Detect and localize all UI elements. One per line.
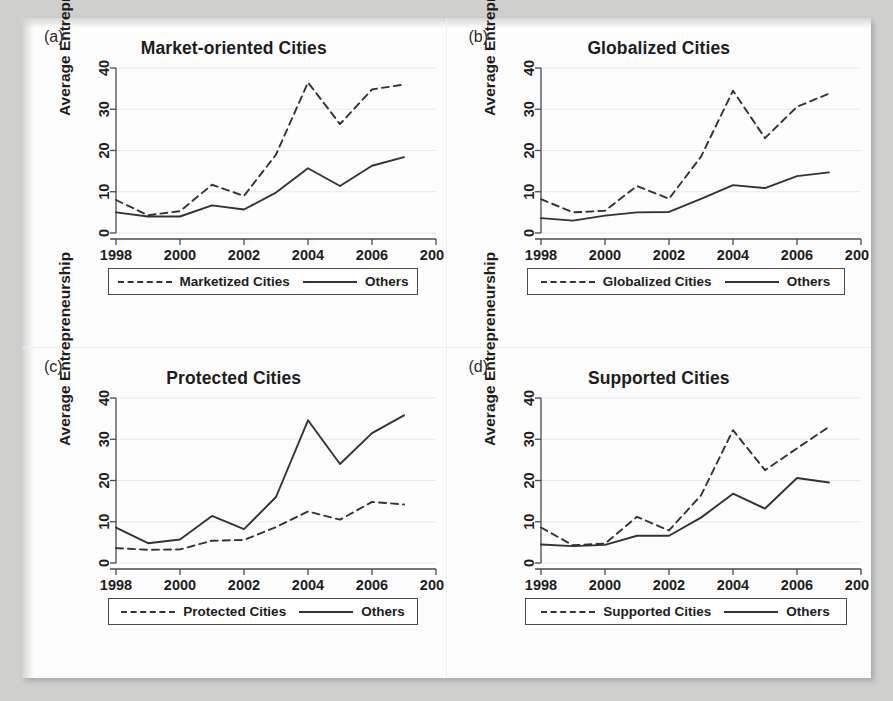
y-axis-label-text-d: Average Entrepreneurship [481, 256, 499, 446]
svg-text:20: 20 [520, 142, 536, 158]
svg-text:2002: 2002 [228, 247, 260, 263]
y-axis-label-c: Average Entrepreneurship [22, 396, 52, 596]
svg-text:2002: 2002 [652, 577, 684, 593]
svg-text:1998: 1998 [524, 577, 556, 593]
legend-label-dashed-d: Supported Cities [603, 604, 711, 619]
legend-dashed-line-icon [118, 281, 172, 283]
svg-text:0: 0 [96, 559, 112, 567]
svg-text:2006: 2006 [356, 247, 388, 263]
scanned-page-background: (a) Market-oriented Cities Average Entre… [0, 0, 893, 701]
panel-d: (d) Supported Cities Average Entrepreneu… [447, 348, 872, 678]
legend-dashed-line-icon [541, 281, 595, 283]
svg-text:2000: 2000 [164, 247, 196, 263]
panel-title-c: Protected Cities [22, 368, 446, 389]
legend-solid-line-icon [725, 281, 779, 283]
plot-area-c: 010203040199820002002200420062008 [74, 388, 444, 603]
legend-label-solid-c: Others [361, 604, 405, 619]
legend-entry-solid-b: Others [725, 274, 831, 289]
svg-text:2004: 2004 [716, 247, 748, 263]
svg-text:2006: 2006 [780, 247, 812, 263]
legend-d: Supported Cities Others [525, 598, 847, 625]
svg-text:1998: 1998 [100, 247, 132, 263]
legend-solid-line-icon [299, 611, 353, 613]
svg-text:2002: 2002 [652, 247, 684, 263]
svg-text:2008: 2008 [844, 247, 868, 263]
plot-area-b: 010203040199820002002200420062008 [499, 58, 869, 273]
svg-text:30: 30 [520, 431, 536, 447]
legend-label-solid-a: Others [365, 274, 409, 289]
svg-text:20: 20 [96, 142, 112, 158]
svg-text:2000: 2000 [588, 247, 620, 263]
legend-entry-solid-a: Others [303, 274, 409, 289]
svg-text:1998: 1998 [524, 247, 556, 263]
legend-entry-dashed-b: Globalized Cities [541, 274, 712, 289]
panel-title-d: Supported Cities [447, 368, 872, 389]
legend-label-dashed-b: Globalized Cities [603, 274, 712, 289]
panel-title-b: Globalized Cities [447, 38, 872, 59]
svg-text:40: 40 [520, 390, 536, 406]
svg-text:30: 30 [96, 431, 112, 447]
y-axis-label-a: Average Entrepreneurship [22, 66, 52, 266]
legend-b: Globalized Cities Others [527, 268, 845, 295]
svg-text:2004: 2004 [716, 577, 748, 593]
svg-text:10: 10 [520, 184, 536, 200]
svg-text:2008: 2008 [420, 247, 444, 263]
svg-text:2004: 2004 [292, 577, 324, 593]
legend-c: Protected Cities Others [108, 598, 418, 625]
y-axis-label-b: Average Entrepreneurship [447, 66, 477, 266]
svg-text:30: 30 [520, 101, 536, 117]
y-axis-label-d: Average Entrepreneurship [447, 396, 477, 596]
panel-grid: (a) Market-oriented Cities Average Entre… [22, 18, 871, 678]
svg-text:2002: 2002 [228, 577, 260, 593]
plot-area-d: 010203040199820002002200420062008 [499, 388, 869, 603]
panel-b: (b) Globalized Cities Average Entreprene… [447, 18, 872, 348]
legend-entry-dashed-d: Supported Cities [541, 604, 711, 619]
y-axis-label-text-b: Average Entrepreneurship [481, 0, 499, 116]
svg-text:0: 0 [520, 229, 536, 237]
y-axis-label-text-c: Average Entrepreneurship [56, 256, 74, 446]
svg-text:2008: 2008 [420, 577, 444, 593]
svg-text:2006: 2006 [780, 577, 812, 593]
svg-text:20: 20 [520, 472, 536, 488]
legend-label-solid-b: Others [787, 274, 831, 289]
legend-entry-dashed-c: Protected Cities [121, 604, 286, 619]
svg-text:30: 30 [96, 101, 112, 117]
legend-a: Marketized Cities Others [108, 268, 418, 295]
svg-text:20: 20 [96, 472, 112, 488]
svg-text:2004: 2004 [292, 247, 324, 263]
svg-text:10: 10 [96, 184, 112, 200]
svg-text:40: 40 [96, 60, 112, 76]
legend-label-solid-d: Others [786, 604, 830, 619]
svg-text:10: 10 [520, 514, 536, 530]
legend-label-dashed-a: Marketized Cities [180, 274, 290, 289]
svg-text:0: 0 [520, 559, 536, 567]
svg-text:40: 40 [520, 60, 536, 76]
panel-c: (c) Protected Cities Average Entrepreneu… [22, 348, 447, 678]
legend-solid-line-icon [724, 611, 778, 613]
legend-label-dashed-c: Protected Cities [183, 604, 286, 619]
svg-text:1998: 1998 [100, 577, 132, 593]
legend-dashed-line-icon [121, 611, 175, 613]
legend-entry-dashed-a: Marketized Cities [118, 274, 290, 289]
svg-text:2000: 2000 [588, 577, 620, 593]
svg-text:10: 10 [96, 514, 112, 530]
legend-entry-solid-d: Others [724, 604, 830, 619]
legend-entry-solid-c: Others [299, 604, 405, 619]
legend-dashed-line-icon [541, 611, 595, 613]
svg-text:0: 0 [96, 229, 112, 237]
legend-solid-line-icon [303, 281, 357, 283]
svg-text:40: 40 [96, 390, 112, 406]
panel-a: (a) Market-oriented Cities Average Entre… [22, 18, 447, 348]
plot-area-a: 010203040199820002002200420062008 [74, 58, 444, 273]
svg-text:2006: 2006 [356, 577, 388, 593]
svg-text:2008: 2008 [844, 577, 868, 593]
panel-title-a: Market-oriented Cities [22, 38, 446, 59]
svg-text:2000: 2000 [164, 577, 196, 593]
y-axis-label-text-a: Average Entrepreneurship [56, 0, 74, 116]
